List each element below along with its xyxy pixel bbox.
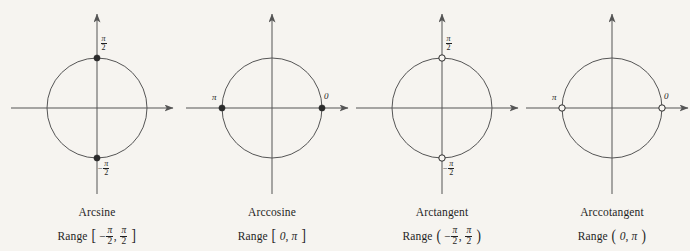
caption-arccotangent: ArccotangentRange ( 0, π ): [526, 204, 690, 250]
panel-arccotangent: π0ArccotangentRange ( 0, π ): [526, 0, 690, 251]
endpoint-label-bottom: −π2: [443, 160, 455, 178]
function-name: Arccotangent: [526, 204, 690, 222]
caption-arcsine: ArcsineRange [ −π2, π2 ]: [11, 204, 183, 250]
unit-circle-arctangent: [356, 0, 528, 200]
function-range: Range [ −π2, π2 ]: [11, 224, 183, 250]
function-range: Range ( −π2, π2 ): [356, 224, 528, 250]
endpoint-marker-right-filled: [319, 105, 325, 111]
endpoint-label-right: 0: [324, 91, 329, 101]
unit-circle-arcsine: [11, 0, 183, 200]
function-range: Range ( 0, π ): [526, 224, 690, 250]
endpoint-label-left: π: [552, 92, 557, 102]
endpoint-label-bottom: −π2: [98, 160, 110, 178]
endpoint-marker-left-open: [559, 105, 565, 111]
endpoint-label-top: π2: [100, 35, 107, 53]
endpoint-marker-right-open: [659, 105, 665, 111]
endpoint-label-left: π: [212, 92, 217, 102]
panel-arccosine: π0ArccosineRange [ 0, π ]: [186, 0, 358, 251]
endpoint-label-top: π2: [445, 35, 452, 53]
function-name: Arccosine: [186, 204, 358, 222]
function-range: Range [ 0, π ]: [186, 224, 358, 250]
panel-arcsine: π2−π2ArcsineRange [ −π2, π2 ]: [11, 0, 183, 251]
function-name: Arctangent: [356, 204, 528, 222]
function-name: Arcsine: [11, 204, 183, 222]
endpoint-marker-top-open: [439, 55, 445, 61]
caption-arctangent: ArctangentRange ( −π2, π2 ): [356, 204, 528, 250]
endpoint-label-right: 0: [664, 91, 669, 101]
panel-arctangent: π2−π2ArctangentRange ( −π2, π2 ): [356, 0, 528, 251]
inverse-trig-ranges-figure: π2−π2ArcsineRange [ −π2, π2 ]π0Arccosine…: [0, 0, 690, 251]
caption-arccosine: ArccosineRange [ 0, π ]: [186, 204, 358, 250]
endpoint-marker-left-filled: [219, 105, 225, 111]
endpoint-marker-top-filled: [94, 55, 100, 61]
